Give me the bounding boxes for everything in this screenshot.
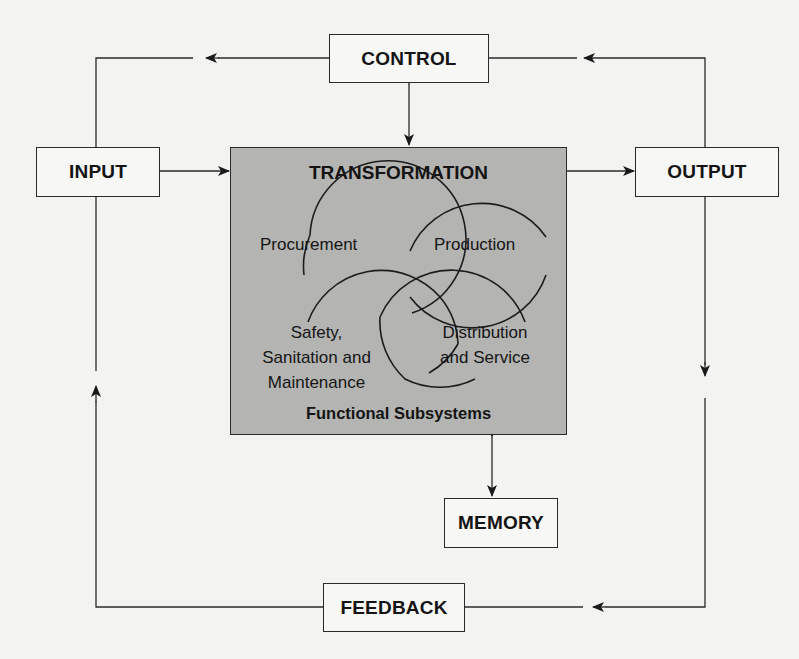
output-label: OUTPUT <box>667 161 746 183</box>
output-to-control-line <box>587 58 705 147</box>
memory-box: MEMORY <box>444 498 558 548</box>
control-to-input-line <box>96 58 193 147</box>
systems-diagram: CONTROL INPUT OUTPUT TRANSFORMATION Proc… <box>0 0 799 659</box>
feedback-box: FEEDBACK <box>323 583 465 632</box>
input-label: INPUT <box>69 161 127 183</box>
output-box: OUTPUT <box>635 147 779 197</box>
feedback-label: FEEDBACK <box>340 597 447 619</box>
control-box: CONTROL <box>329 34 489 83</box>
distribution-service-label: Distribution and Service <box>430 320 540 370</box>
safety-sanitation-maintenance-label: Safety, Sanitation and Maintenance <box>249 320 384 395</box>
procurement-label: Procurement <box>260 232 357 257</box>
control-label: CONTROL <box>361 48 456 70</box>
memory-label: MEMORY <box>458 512 544 534</box>
production-circle <box>410 203 546 328</box>
functional-subsystems-caption: Functional Subsystems <box>231 404 566 423</box>
production-label: Production <box>434 232 515 257</box>
input-box: INPUT <box>36 147 160 197</box>
transformation-box: TRANSFORMATION Procurement Production Sa… <box>230 147 567 435</box>
